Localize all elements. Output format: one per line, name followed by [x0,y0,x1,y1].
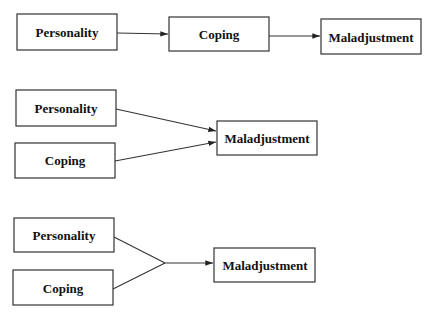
node-maladjustment: Maladjustment [321,19,421,54]
edge-personality-coping [117,33,168,34]
node-personality: Personality [16,90,116,126]
interaction-model: Personality Coping Maladjustment [13,218,315,305]
node-maladjustment: Maladjustment [214,248,315,282]
edge-personality-junction [114,237,165,263]
node-label: Personality [33,228,96,243]
node-label: Coping [199,27,240,42]
additive-model: Personality Coping Maladjustment [15,90,317,178]
node-label: Maladjustment [222,258,308,273]
node-coping: Coping [13,270,113,305]
node-label: Personality [35,101,98,116]
node-label: Maladjustment [328,30,414,45]
node-label: Coping [43,281,84,296]
edge-personality-maladjustment [116,109,216,131]
node-label: Coping [45,153,86,168]
edge-coping-maladjustment [115,142,216,161]
node-personality: Personality [14,218,114,252]
node-coping: Coping [169,17,269,51]
node-coping: Coping [15,143,115,178]
edge-coping-junction [113,263,165,289]
node-label: Personality [36,25,99,40]
node-label: Maladjustment [224,131,310,146]
node-maladjustment: Maladjustment [217,121,317,155]
diagram-canvas: Personality Coping Maladjustment Persona… [0,0,437,320]
node-personality: Personality [17,14,117,50]
mediation-model: Personality Coping Maladjustment [17,14,421,54]
